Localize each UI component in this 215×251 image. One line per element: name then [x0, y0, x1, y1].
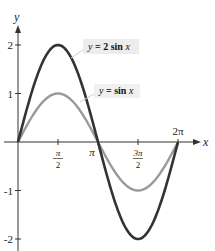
y-axis-label: y — [13, 10, 20, 24]
svg-text:y = 2 sin x: y = 2 sin x — [87, 41, 130, 52]
legend-2sin-eq: = 2 sin — [92, 41, 125, 52]
legend-sin: y = sin x — [80, 84, 140, 102]
y-tick-label: 2 — [8, 39, 14, 51]
x-tick-label-den: 2 — [56, 160, 61, 170]
legend-2sin: y = 2 sin x — [71, 39, 139, 58]
legend-sin-eq: = sin — [103, 85, 128, 96]
y-tick-label: -1 — [4, 185, 13, 197]
x-tick-label-num: 3π — [132, 148, 143, 158]
y-tick-label: -2 — [4, 233, 13, 245]
x-tick-label: 2π — [172, 125, 184, 137]
x-tick-label-num: π — [56, 148, 61, 158]
x-tick-label: π — [89, 146, 95, 158]
y-axis-arrow-icon — [15, 25, 21, 33]
legend-2sin-x: x — [124, 41, 130, 52]
x-axis-arrow-icon — [193, 139, 201, 145]
svg-text:y = sin x: y = sin x — [98, 85, 134, 96]
legend-sin-x: x — [128, 85, 134, 96]
x-axis-label: x — [202, 135, 209, 149]
y-tick-label: 1 — [8, 88, 14, 100]
x-tick-label-den: 2 — [136, 160, 141, 170]
leader-line-2sin — [71, 50, 83, 58]
sine-chart: x y π2π3π22π21-1-2 y = 2 sin x y = sin x — [0, 0, 215, 251]
